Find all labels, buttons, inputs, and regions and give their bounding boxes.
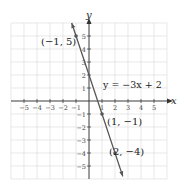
point-label-c: (2, −4)	[109, 146, 144, 157]
y-tick-label: 5	[82, 33, 86, 41]
y-tick-label: 4	[82, 46, 86, 54]
y-tick-label: 2	[82, 72, 86, 80]
x-tick-label: 4	[139, 104, 143, 112]
x-tick-label: 5	[152, 104, 156, 112]
x-tick-label: 2	[113, 104, 117, 112]
line-arrow-end-icon	[119, 171, 123, 176]
axes	[11, 18, 173, 179]
x-tick-label: −4	[32, 104, 42, 112]
x-tick-label: −5	[19, 104, 29, 112]
y-tick-label: −5	[76, 163, 86, 171]
y-tick-label: −3	[76, 137, 86, 145]
coordinate-plane: −5−4−3−2−112345−5−4−3−2−112345 x y y = −…	[0, 0, 184, 184]
equation-label: y = −3x + 2	[102, 79, 162, 90]
x-tick-label: −2	[58, 104, 68, 112]
y-tick-label: −2	[76, 124, 86, 132]
y-tick-label: −4	[76, 150, 86, 158]
x-tick-label: 3	[126, 104, 130, 112]
point-label-b: (1, −1)	[107, 116, 142, 127]
line-arrow-start-icon	[71, 23, 75, 28]
x-axis-label: x	[171, 95, 177, 106]
y-tick-label: 1	[82, 85, 86, 93]
data-point	[100, 112, 104, 116]
x-tick-label: −3	[45, 104, 55, 112]
point-label-a: (−1, 5)	[41, 36, 76, 47]
y-tick-label: −1	[76, 111, 86, 119]
y-axis-label: y	[85, 9, 92, 20]
